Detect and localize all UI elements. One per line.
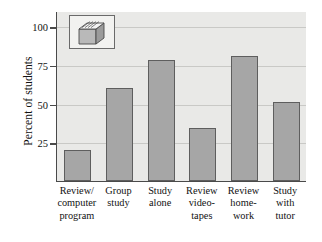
gridline (57, 143, 306, 144)
y-axis-tick-label: 25 (14, 138, 48, 149)
stack-of-books-icon-box (69, 15, 115, 49)
y-axis-tick (50, 66, 57, 67)
bar (231, 56, 258, 181)
stack-of-books-icon (72, 17, 112, 47)
x-axis-label: Groupstudy (98, 185, 140, 210)
bar (64, 150, 91, 181)
y-axis-tick (50, 105, 57, 106)
y-axis-tick (50, 27, 57, 28)
bar-chart-figure: Percent of students 255075100 Review/com… (0, 0, 322, 242)
gridline (57, 66, 306, 67)
bar (148, 60, 175, 181)
y-axis-tick (50, 143, 57, 144)
gridline (57, 105, 306, 106)
bar (273, 102, 300, 181)
x-axis-label: Reviewhome-work (223, 185, 265, 222)
y-axis-tick-label: 75 (14, 61, 48, 72)
bar (106, 88, 133, 181)
y-axis-tick-label: 50 (14, 99, 48, 110)
x-axis-labels: Review/computerprogramGroupstudyStudyalo… (56, 185, 306, 241)
x-axis-label: Studyalone (139, 185, 181, 210)
plot-area: 255075100 (56, 12, 306, 182)
y-axis-tick-label: 100 (14, 22, 48, 33)
x-axis-label: Review/computerprogram (56, 185, 98, 222)
x-axis-label: Studywithtutor (264, 185, 306, 222)
x-axis-label: Reviewvideo-tapes (181, 185, 223, 222)
bar (189, 128, 216, 181)
